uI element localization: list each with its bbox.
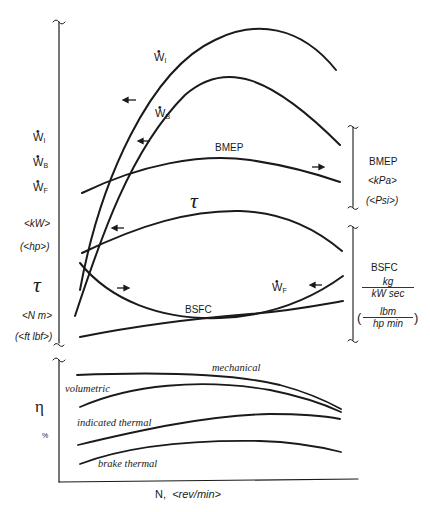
left-axis-wf-label: •WF xyxy=(33,182,48,194)
brake-power-label: •WB xyxy=(155,108,170,120)
torque-unit-us: (<ft lbf>) xyxy=(15,332,52,342)
bmep-axis-label: BMEP xyxy=(369,157,397,167)
diagram-canvas xyxy=(0,0,430,512)
torque-curve xyxy=(82,211,342,253)
power-unit-si: <kW> xyxy=(24,219,50,229)
indicated-thermal-efficiency-label: indicated thermal xyxy=(77,418,151,429)
bsfc-unit-si: kg kW sec xyxy=(362,276,414,299)
bmep-unit-si: <kPa> xyxy=(368,176,397,186)
arrow-left-icon xyxy=(310,283,322,288)
arrow-left-icon xyxy=(112,226,124,231)
bsfc-curve-label: BSFC xyxy=(185,305,212,315)
x-axis-label: N, <rev/min> xyxy=(155,489,221,500)
volumetric-efficiency-curve xyxy=(80,384,341,412)
axis-break-bottom-icon xyxy=(54,344,64,347)
torque-unit-si: <N m> xyxy=(22,311,52,321)
efficiency-axis-symbol: η xyxy=(35,398,44,415)
arrow-right-icon xyxy=(312,165,324,170)
bmep-curve-label: BMEP xyxy=(215,143,243,153)
brake-power-curve xyxy=(75,77,340,316)
efficiency-axis-unit: % xyxy=(42,432,48,439)
indicated-power-curve xyxy=(80,29,336,290)
friction-power-label: •WF xyxy=(272,282,287,294)
left-axis-wi-label: •WI xyxy=(33,132,45,144)
torque-axis-symbol: τ xyxy=(33,274,41,296)
left-axis-wb-label: •WB xyxy=(33,157,48,169)
bmep-unit-us: (<Psi>) xyxy=(366,196,398,206)
mechanical-efficiency-curve xyxy=(77,374,341,409)
brake-thermal-efficiency-label: brake thermal xyxy=(98,459,157,470)
bmep-curve xyxy=(82,158,340,193)
arrow-right-icon xyxy=(117,286,129,291)
bsfc-unit-us: lbm hp min xyxy=(363,306,413,329)
arrow-left-icon xyxy=(123,98,136,103)
indicated-power-label: •WI xyxy=(154,52,166,64)
torque-curve-label: τ xyxy=(190,190,198,212)
bsfc-unit-us-paren-open: ( xyxy=(357,311,361,324)
mechanical-efficiency-label: mechanical xyxy=(212,363,260,374)
x-axis xyxy=(59,479,358,482)
bsfc-unit-us-paren-close: ) xyxy=(414,311,418,324)
bsfc-axis-label: BSFC xyxy=(371,263,398,273)
power-unit-us: (<hp>) xyxy=(20,242,49,252)
volumetric-efficiency-label: volumetric xyxy=(65,384,110,395)
